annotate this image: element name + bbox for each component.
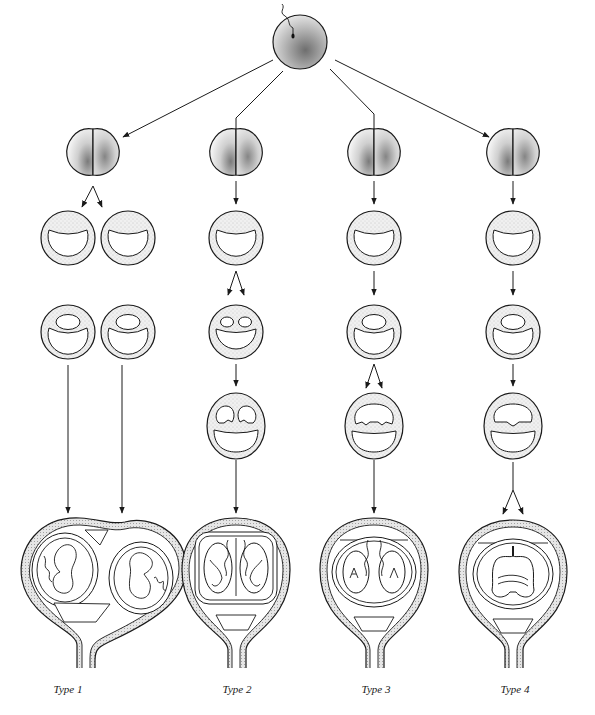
two-cell-stage-type-4 bbox=[487, 129, 540, 176]
zygote bbox=[273, 4, 327, 69]
blastocyst-amnion-type-1-a bbox=[41, 305, 95, 359]
type-4-label: Type 4 bbox=[501, 683, 530, 695]
blastocyst-type-1-b bbox=[101, 211, 155, 265]
type-3-label: Type 3 bbox=[362, 683, 391, 695]
embryo-conjoined-type-4 bbox=[484, 393, 542, 459]
blastocyst-type-4 bbox=[486, 211, 540, 265]
blastocyst-amnion-type-1-b bbox=[101, 305, 155, 359]
arrows-to-uterus bbox=[68, 365, 523, 514]
twinning-diagram bbox=[0, 0, 595, 715]
type-2-label: Type 2 bbox=[223, 683, 252, 695]
uterus-type-1 bbox=[21, 518, 186, 668]
arrows-row-4 bbox=[236, 364, 513, 388]
blastocyst-type-2 bbox=[209, 211, 263, 265]
two-cell-stage-type-2 bbox=[210, 129, 263, 176]
uterus-type-2 bbox=[182, 518, 290, 668]
two-cell-stage-type-3 bbox=[348, 129, 401, 176]
uterus-type-3 bbox=[320, 518, 428, 668]
embryo-partial-split-type-3 bbox=[345, 393, 403, 459]
blastocyst-amnion-type-3 bbox=[347, 305, 401, 359]
arrows-row-3 bbox=[228, 271, 513, 295]
two-cell-stage-type-1 bbox=[67, 129, 120, 176]
blastocyst-type-1-a bbox=[41, 211, 95, 265]
blastocyst-type-3 bbox=[347, 211, 401, 265]
uterus-type-4 bbox=[459, 520, 567, 668]
arrows-row-2 bbox=[82, 181, 513, 207]
embryo-split-amnion-type-2 bbox=[207, 393, 265, 459]
type-1-label: Type 1 bbox=[54, 683, 83, 695]
blastocyst-amnion-type-4 bbox=[486, 305, 540, 359]
embryo-two-masses-type-2 bbox=[209, 305, 263, 359]
zygote-arrows bbox=[123, 60, 489, 137]
